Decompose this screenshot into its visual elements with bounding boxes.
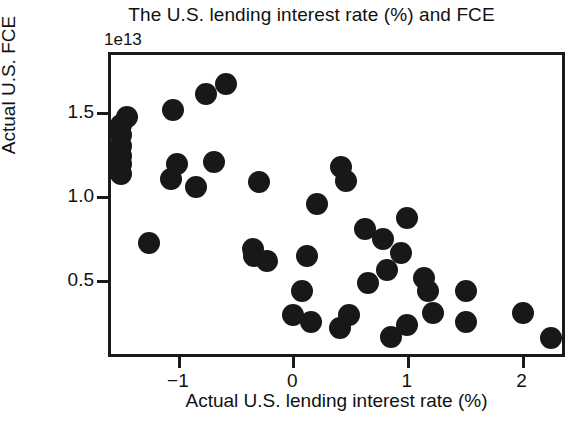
y-axis-tick-label: 1.5	[68, 101, 94, 123]
data-point	[160, 168, 182, 190]
data-point	[372, 228, 394, 250]
data-point	[335, 170, 357, 192]
y-axis-tick	[97, 196, 108, 199]
data-point	[195, 83, 217, 105]
data-point	[455, 311, 477, 333]
y-axis-offset-label: 1e13	[104, 30, 142, 50]
x-axis-tick-label: 1	[402, 370, 413, 392]
x-axis-tick-label: −1	[167, 370, 189, 392]
x-axis-tick	[522, 357, 525, 368]
data-point	[422, 302, 444, 324]
data-point	[138, 232, 160, 254]
data-point	[110, 163, 132, 185]
scatter-plot-figure: The U.S. lending interest rate (%) and F…	[0, 0, 583, 441]
data-point	[306, 193, 328, 215]
y-axis-tick-label: 0.5	[68, 269, 94, 291]
data-point	[329, 317, 351, 339]
data-point	[396, 207, 418, 229]
y-axis-tick	[97, 280, 108, 283]
y-axis-ticks	[108, 52, 109, 357]
plot-area	[108, 52, 565, 357]
data-point	[215, 73, 237, 95]
data-point	[203, 151, 225, 173]
x-axis-tick	[178, 357, 181, 368]
data-point	[376, 259, 398, 281]
x-axis-ticks-and-labels: −1012	[108, 357, 565, 358]
data-point	[300, 311, 322, 333]
x-axis-tick	[292, 357, 295, 368]
x-axis-tick-label: 2	[516, 370, 527, 392]
data-point	[512, 302, 534, 324]
data-point	[185, 176, 207, 198]
data-point	[417, 280, 439, 302]
x-axis-tick	[407, 357, 410, 368]
data-point	[248, 171, 270, 193]
y-axis-tick-label: 1.0	[68, 185, 94, 207]
y-axis-title: Actual U.S. FCE	[0, 0, 20, 205]
y-axis-tick	[97, 112, 108, 115]
data-point	[291, 280, 313, 302]
data-point	[540, 327, 562, 349]
x-axis-tick-label: 0	[287, 370, 298, 392]
data-point	[357, 272, 379, 294]
data-point	[256, 250, 278, 272]
data-point	[162, 99, 184, 121]
data-point	[296, 245, 318, 267]
data-point	[455, 280, 477, 302]
data-point	[396, 314, 418, 336]
x-axis-title: Actual U.S. lending interest rate (%)	[108, 390, 565, 412]
page-title: The U.S. lending interest rate (%) and F…	[0, 4, 583, 26]
